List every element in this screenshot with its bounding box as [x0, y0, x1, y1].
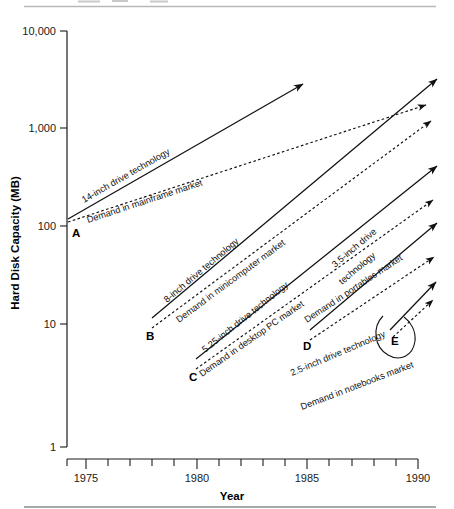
x-axis	[67, 459, 418, 469]
y-tick-10: 10	[44, 318, 56, 330]
disruption-s-curve-chart: 10,000 1,000 100 10 1 Hard Disk Capacity…	[0, 0, 454, 509]
series-line-demand-minicomputer-market	[152, 121, 431, 328]
point-label-b: B	[146, 330, 154, 342]
point-label-e: E	[391, 335, 399, 347]
annotation-25inch-drive-technology: 2.5-inch drive technology	[289, 329, 387, 378]
y-axis-title: Hard Disk Capacity (MB)	[9, 176, 21, 310]
x-tick-1985: 1985	[295, 472, 319, 484]
figure-header-cutoff	[24, 1, 436, 7]
series-line-14inch-drive-technology	[68, 84, 303, 219]
x-tick-1980: 1980	[185, 472, 209, 484]
point-label-c: C	[189, 371, 197, 383]
x-tick-labels: 1975 1980 1985 1990	[74, 472, 430, 484]
y-tick-labels: 10,000 1,000 100 10 1	[22, 25, 56, 453]
y-tick-100: 100	[38, 220, 56, 232]
y-axis	[60, 31, 67, 447]
point-label-d: D	[303, 340, 311, 352]
x-tick-1990: 1990	[406, 472, 430, 484]
x-axis-title: Year	[220, 490, 245, 502]
annotation-demand-portables-market: Demand in portables market	[303, 252, 405, 324]
y-tick-10000: 10,000	[22, 25, 56, 37]
point-label-a: A	[72, 227, 80, 239]
series-line-25inch-drive-technology	[390, 282, 436, 330]
y-tick-1000: 1,000	[28, 122, 56, 134]
chart-figure: 10,000 1,000 100 10 1 Hard Disk Capacity…	[0, 0, 454, 509]
y-tick-1: 1	[50, 441, 56, 453]
x-tick-1975: 1975	[74, 472, 98, 484]
